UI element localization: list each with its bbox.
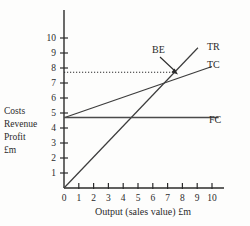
annotation-label-be: BE <box>152 44 165 55</box>
series-lines-group <box>64 48 219 188</box>
y-tick-label-9: 9 <box>51 48 56 58</box>
y-tick-label-4: 4 <box>51 123 56 133</box>
series-label-tr: TR <box>207 41 220 52</box>
y-axis-ticks: 12345678910 <box>47 33 69 178</box>
y-tick-label-1: 1 <box>51 168 56 178</box>
x-axis-ticks: 012345678910 <box>62 183 217 203</box>
y-tick-label-2: 2 <box>51 153 56 163</box>
chart-canvas: 12345678910 012345678910 TR TC FC BE Cos… <box>0 0 250 226</box>
x-axis-title: Output (sales value) £m <box>95 206 191 218</box>
axes-group <box>64 10 224 188</box>
series-label-tc: TC <box>207 59 220 70</box>
series-label-fc: FC <box>209 114 222 125</box>
y-axis-label-line-2: Profit <box>4 132 26 142</box>
y-tick-label-10: 10 <box>47 33 57 43</box>
x-tick-label-8: 8 <box>180 193 185 203</box>
x-tick-label-4: 4 <box>121 193 126 203</box>
x-tick-label-2: 2 <box>91 193 96 203</box>
x-tick-label-7: 7 <box>165 193 170 203</box>
x-tick-label-0: 0 <box>62 193 67 203</box>
x-tick-label-10: 10 <box>207 193 217 203</box>
x-tick-label-6: 6 <box>150 193 155 203</box>
x-tick-label-5: 5 <box>136 193 141 203</box>
x-tick-label-3: 3 <box>106 193 111 203</box>
y-axis-label-line-3: £m <box>4 145 17 155</box>
break-even-annotation: BE <box>152 44 178 75</box>
y-tick-label-8: 8 <box>51 63 56 73</box>
y-axis-label-line-0: Costs <box>4 106 25 116</box>
y-axis-label-line-1: Revenue <box>4 119 37 129</box>
y-tick-label-3: 3 <box>51 138 56 148</box>
y-tick-label-7: 7 <box>51 78 56 88</box>
y-tick-label-5: 5 <box>51 108 56 118</box>
y-axis-label: Costs Revenue Profit £m <box>4 106 37 155</box>
break-even-chart: 12345678910 012345678910 TR TC FC BE Cos… <box>0 0 250 226</box>
break-even-arrow-shaft <box>160 57 176 72</box>
y-tick-label-6: 6 <box>51 93 56 103</box>
x-tick-label-9: 9 <box>195 193 200 203</box>
x-tick-label-1: 1 <box>76 193 81 203</box>
